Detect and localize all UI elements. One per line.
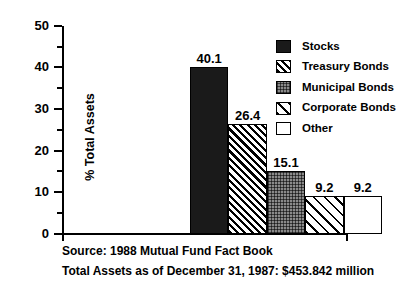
legend-swatch-stocks-icon bbox=[276, 40, 291, 53]
legend-label-municipal-bonds: Municipal Bonds bbox=[302, 82, 394, 94]
bar-chart-figure: 50 40 30 20 10 0 % Total Assets 40.1 26.… bbox=[0, 0, 409, 291]
legend-item-municipal-bonds[interactable]: Municipal Bonds bbox=[276, 77, 409, 98]
bar-slot-treasury-bonds: 26.4 bbox=[228, 26, 266, 234]
legend-label-treasury-bonds: Treasury Bonds bbox=[302, 61, 389, 73]
y-tick-label-20: 20 bbox=[9, 144, 49, 157]
legend-item-treasury-bonds[interactable]: Treasury Bonds bbox=[276, 57, 409, 78]
legend-label-other: Other bbox=[302, 123, 333, 135]
bar-corporate-bonds[interactable]: 9.2 bbox=[305, 196, 343, 234]
bar-municipal-bonds[interactable]: 15.1 bbox=[267, 171, 305, 234]
y-tick-label-50: 50 bbox=[9, 19, 49, 32]
bar-value-other: 9.2 bbox=[354, 181, 372, 194]
caption-source: Source: 1988 Mutual Fund Fact Book bbox=[62, 245, 273, 257]
y-tick-label-40: 40 bbox=[9, 60, 49, 73]
bar-stocks[interactable]: 40.1 bbox=[190, 67, 228, 234]
y-tick-20 bbox=[54, 150, 62, 152]
x-axis-tick-left bbox=[62, 234, 64, 241]
x-axis-tick-right bbox=[346, 234, 348, 241]
legend-swatch-treasury-bonds-icon bbox=[276, 60, 291, 73]
legend-swatch-municipal-bonds-icon bbox=[276, 81, 291, 94]
bar-slot-stocks: 40.1 bbox=[190, 26, 228, 234]
y-axis-title: % Total Assets bbox=[83, 57, 97, 217]
legend-label-corporate-bonds: Corporate Bonds bbox=[302, 102, 396, 114]
legend-item-stocks[interactable]: Stocks bbox=[276, 36, 409, 57]
bar-value-stocks: 40.1 bbox=[197, 52, 222, 65]
bar-other[interactable]: 9.2 bbox=[344, 196, 382, 234]
legend-item-other[interactable]: Other bbox=[276, 118, 409, 139]
legend-swatch-corporate-bonds-icon bbox=[276, 102, 291, 115]
y-tick-label-10: 10 bbox=[9, 185, 49, 198]
y-tick-label-30: 30 bbox=[9, 102, 49, 115]
legend-label-stocks: Stocks bbox=[302, 41, 340, 53]
legend-item-corporate-bonds[interactable]: Corporate Bonds bbox=[276, 98, 409, 119]
bar-value-municipal-bonds: 15.1 bbox=[273, 156, 298, 169]
y-tick-label-0: 0 bbox=[9, 227, 49, 240]
y-tick-0 bbox=[54, 233, 62, 235]
y-tick-10 bbox=[54, 191, 62, 193]
caption-total-assets: Total Assets as of December 31, 1987: $4… bbox=[62, 265, 374, 277]
y-tick-40 bbox=[54, 66, 62, 68]
bar-treasury-bonds[interactable]: 26.4 bbox=[228, 124, 266, 234]
legend-swatch-other-icon bbox=[276, 122, 291, 135]
y-tick-30 bbox=[54, 108, 62, 110]
y-tick-50 bbox=[54, 25, 62, 27]
bar-value-treasury-bonds: 26.4 bbox=[235, 109, 260, 122]
legend: Stocks Treasury Bonds Municipal Bonds Co… bbox=[276, 36, 409, 139]
bar-value-corporate-bonds: 9.2 bbox=[315, 181, 333, 194]
